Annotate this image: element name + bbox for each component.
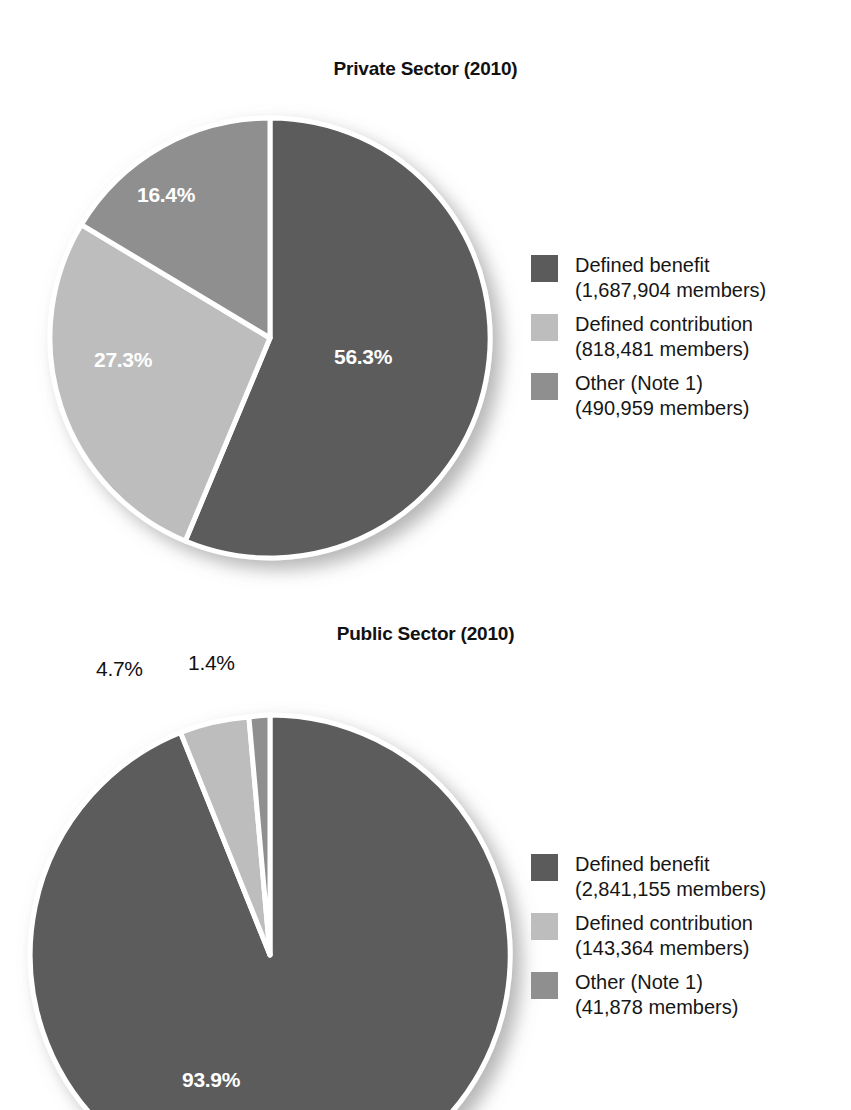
legend-label-detail: (41,878 members): [575, 995, 738, 1020]
legend-label-name: Defined contribution: [575, 312, 753, 337]
legend-item-defined-benefit[interactable]: Defined benefit (2,841,155 members): [531, 852, 766, 902]
legend-text-defined-benefit: Defined benefit (1,687,904 members): [575, 253, 766, 303]
legend-label-detail: (1,687,904 members): [575, 278, 766, 303]
legend-label-name: Defined benefit: [575, 253, 766, 278]
legend-swatch-defined-contribution: [531, 913, 558, 940]
legend-item-other[interactable]: Other (Note 1) (41,878 members): [531, 970, 766, 1020]
pie-label-other: 1.4%: [188, 651, 235, 675]
public-sector-legend: Defined benefit (2,841,155 members) Defi…: [531, 852, 766, 1029]
legend-swatch-other: [531, 972, 558, 999]
pie-label-other: 16.4%: [137, 183, 195, 207]
legend-label-name: Other (Note 1): [575, 970, 738, 995]
legend-swatch-defined-benefit: [531, 255, 558, 282]
private-sector-legend: Defined benefit (1,687,904 members) Defi…: [531, 253, 766, 430]
legend-item-other[interactable]: Other (Note 1) (490,959 members): [531, 371, 766, 421]
legend-label-detail: (818,481 members): [575, 337, 753, 362]
pie-label-defined-contribution: 4.7%: [96, 657, 143, 681]
legend-item-defined-benefit[interactable]: Defined benefit (1,687,904 members): [531, 253, 766, 303]
legend-text-other: Other (Note 1) (490,959 members): [575, 371, 750, 421]
legend-text-defined-benefit: Defined benefit (2,841,155 members): [575, 852, 766, 902]
pie-label-defined-benefit: 93.9%: [182, 1068, 240, 1092]
pie-label-defined-benefit: 56.3%: [334, 345, 392, 369]
legend-label-detail: (143,364 members): [575, 936, 753, 961]
legend-label-detail: (2,841,155 members): [575, 877, 766, 902]
legend-item-defined-contribution[interactable]: Defined contribution (818,481 members): [531, 312, 766, 362]
pie-label-defined-contribution: 27.3%: [94, 348, 152, 372]
legend-label-name: Defined contribution: [575, 911, 753, 936]
legend-swatch-defined-contribution: [531, 314, 558, 341]
private-sector-chart: Private Sector (2010) 56.3% 27.3% 16.4% …: [0, 0, 851, 600]
legend-label-name: Other (Note 1): [575, 371, 750, 396]
legend-text-defined-contribution: Defined contribution (143,364 members): [575, 911, 753, 961]
legend-item-defined-contribution[interactable]: Defined contribution (143,364 members): [531, 911, 766, 961]
legend-swatch-defined-benefit: [531, 854, 558, 881]
legend-text-defined-contribution: Defined contribution (818,481 members): [575, 312, 753, 362]
legend-label-detail: (490,959 members): [575, 396, 750, 421]
legend-label-name: Defined benefit: [575, 852, 766, 877]
legend-swatch-other: [531, 373, 558, 400]
legend-text-other: Other (Note 1) (41,878 members): [575, 970, 738, 1020]
public-sector-chart: Public Sector (2010) 93.9% 4.7% 1.4% Def…: [0, 600, 851, 1110]
